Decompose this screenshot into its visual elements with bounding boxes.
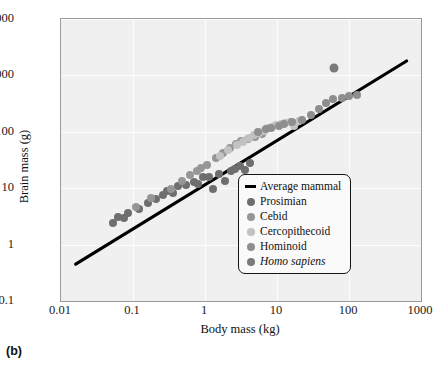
x-tick-label: 0.01 (49, 303, 71, 318)
y-tick-label: 100 (0, 123, 14, 138)
data-point-cebid (203, 161, 211, 169)
legend-dot-swatch (247, 228, 255, 236)
data-point-hominoid (298, 116, 306, 124)
gridline-vertical (421, 19, 422, 301)
legend-label: Average mammal (257, 181, 341, 193)
x-axis-title: Body mass (kg) (60, 322, 420, 337)
data-point-hominoid (288, 118, 296, 126)
legend-label: Cebid (257, 211, 287, 223)
legend-dot-swatch (247, 198, 255, 206)
legend-item-cercopithecoid[interactable]: Cercopithecoid (244, 224, 344, 239)
data-point-cebid (147, 194, 155, 202)
legend-key (244, 228, 257, 236)
legend-key (244, 213, 257, 221)
legend-item-homo-sapiens[interactable]: Homo sapiens (244, 254, 344, 269)
legend-item-prosimian[interactable]: Prosimian (244, 194, 344, 209)
y-axis-title: Brain mass (g) (17, 87, 32, 247)
legend-label: Cercopithecoid (257, 226, 330, 238)
data-point-hominoid (329, 95, 337, 103)
data-point-cebid (167, 185, 175, 193)
figure-panel: 0.11101001,00010,000 0.010.11101001000 B… (0, 0, 438, 368)
data-point-cercopithecoid (224, 146, 232, 154)
data-point-prosimian (241, 166, 249, 174)
data-point-prosimian (221, 177, 229, 185)
legend-key (244, 258, 257, 266)
legend-dot-swatch (247, 213, 255, 221)
x-tick-label: 0.1 (124, 303, 140, 318)
data-point-prosimian (124, 209, 132, 217)
data-point-hominoid (315, 105, 323, 113)
legend-line-swatch (245, 185, 256, 189)
x-tick-label: 100 (339, 303, 358, 318)
x-tick-label: 1 (201, 303, 207, 318)
data-point-prosimian (246, 159, 254, 167)
data-point-hominoid (254, 128, 262, 136)
y-tick-label: 10,000 (0, 11, 14, 26)
data-point-prosimian (209, 185, 217, 193)
legend-key (244, 198, 257, 206)
legend-key (244, 243, 257, 251)
data-point-homo-sapiens (330, 64, 339, 73)
legend-item-hominoid[interactable]: Hominoid (244, 239, 344, 254)
data-point-hominoid (345, 92, 353, 100)
chart-legend: Average mammalProsimianCebidCercopitheco… (238, 174, 351, 274)
legend-dot-swatch (247, 258, 255, 266)
x-tick-label: 10 (270, 303, 283, 318)
y-tick-label: 1,000 (0, 67, 14, 82)
legend-item-cebid[interactable]: Cebid (244, 209, 344, 224)
y-tick-label: 1 (0, 236, 14, 251)
panel-label: (b) (6, 344, 22, 358)
data-point-cebid (178, 177, 186, 185)
data-point-prosimian (215, 170, 223, 178)
legend-key (244, 185, 257, 189)
legend-label: Prosimian (257, 196, 307, 208)
legend-dot-swatch (247, 243, 255, 251)
y-tick-label: 10 (0, 180, 14, 195)
data-point-hominoid (353, 91, 361, 99)
data-point-prosimian (205, 173, 213, 181)
legend-label: Hominoid (257, 241, 307, 253)
data-point-hominoid (307, 111, 315, 119)
y-tick-label: 0.1 (0, 293, 14, 308)
legend-item-average-mammal[interactable]: Average mammal (244, 179, 344, 194)
x-tick-label: 1000 (408, 303, 433, 318)
legend-label: Homo sapiens (257, 256, 326, 268)
data-point-cercopithecoid (216, 152, 224, 160)
data-point-cebid (132, 203, 140, 211)
